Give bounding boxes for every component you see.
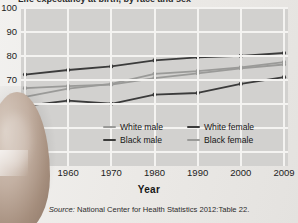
figure-title-text: Life expectancy at birth, by race and se… [18,0,198,4]
legend-swatch-icon [187,139,200,142]
x-axis-tick-label: 2000 [230,167,251,179]
figure-title-cropped: Life expectancy at birth, by race and se… [18,0,198,5]
gridline-vertical [67,8,69,166]
legend-item-black-male: Black male [103,135,187,145]
legend-item-white-female: White female [187,122,275,132]
chart-legend: White maleWhite femaleBlack maleBlack fe… [103,122,275,145]
legend-swatch-icon [103,126,116,129]
legend-label: Black female [204,135,253,145]
page-photo: Life expectancy at birth, by race and se… [0,0,298,223]
y-axis-tick-label: 80 [0,51,17,61]
x-axis-tick-label: 1960 [58,167,79,179]
y-axis-tick-label: 100 [0,3,17,13]
legend-item-black-female: Black female [187,135,275,145]
x-axis-tick-label: 1980 [144,167,165,179]
legend-item-white-male: White male [103,122,187,132]
gridline-vertical [283,8,285,166]
y-axis-tick-label: 90 [0,27,17,37]
x-axis-tick-label: 2009 [273,167,294,179]
x-axis-tick-label: 1970 [101,167,122,179]
legend-swatch-icon [187,126,200,129]
y-axis-tick-label: 70 [0,75,17,85]
source-label: Source: [49,205,75,214]
legend-label: Black male [120,135,162,145]
legend-label: White female [204,122,254,132]
source-text: National Center for Health Statistics 20… [75,205,249,214]
x-axis-tick-label: 1990 [187,167,208,179]
legend-label: White male [120,122,163,132]
legend-swatch-icon [103,139,116,142]
